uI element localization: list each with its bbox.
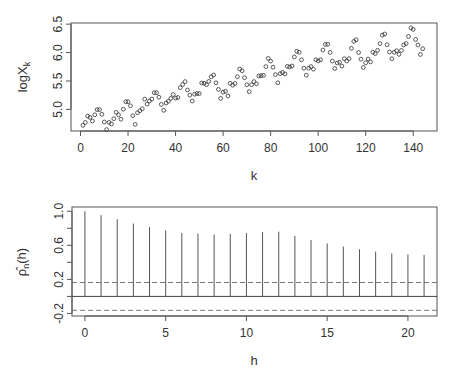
- data-point: [302, 66, 306, 70]
- data-point: [171, 93, 175, 97]
- x-tick-label: 80: [264, 141, 278, 155]
- data-point: [221, 90, 225, 94]
- bottom-y-axis-label: ρ̂n(h): [14, 248, 31, 276]
- data-point: [378, 42, 382, 46]
- x-tick-label: 140: [403, 141, 423, 155]
- data-point: [293, 55, 297, 59]
- data-point: [369, 60, 373, 64]
- data-point: [364, 61, 368, 65]
- data-point: [188, 93, 192, 97]
- x-tick-label: 15: [320, 326, 334, 340]
- data-point: [224, 89, 228, 93]
- data-point: [131, 114, 135, 118]
- data-point: [326, 42, 330, 46]
- bottom-y-axis: -0.20.20.61.0: [52, 203, 72, 324]
- data-point: [236, 75, 240, 79]
- y-tick-label: 0.6: [52, 237, 66, 254]
- data-point: [328, 51, 332, 55]
- data-point: [304, 73, 308, 77]
- data-point: [176, 96, 180, 100]
- acf-bars: [85, 211, 424, 296]
- top-plot-frame: [71, 23, 437, 131]
- data-point: [400, 49, 404, 53]
- data-point: [98, 108, 102, 112]
- data-point: [190, 99, 194, 103]
- data-point: [297, 50, 301, 54]
- data-point: [133, 123, 137, 127]
- data-point: [312, 67, 316, 71]
- top-x-axis: 020406080100120140: [77, 131, 423, 155]
- data-point: [119, 117, 123, 121]
- x-tick-label: 100: [308, 141, 328, 155]
- x-tick-label: 10: [240, 326, 254, 340]
- bottom-x-axis-label: h: [250, 353, 257, 368]
- y-tick-label: 0.2: [52, 271, 66, 288]
- y-tick-label: 5.5: [51, 72, 65, 89]
- data-point: [385, 43, 389, 47]
- data-point: [290, 64, 294, 68]
- data-point: [112, 117, 116, 121]
- data-point: [214, 81, 218, 85]
- data-point: [162, 108, 166, 112]
- data-point: [117, 113, 121, 117]
- data-point: [262, 74, 266, 78]
- data-point: [376, 48, 380, 52]
- x-tick-label: 20: [401, 326, 415, 340]
- data-point: [247, 90, 251, 94]
- data-point: [91, 119, 95, 123]
- data-point: [264, 65, 268, 69]
- x-tick-label: 20: [121, 141, 135, 155]
- x-tick-label: 0: [82, 326, 89, 340]
- data-point: [359, 57, 363, 61]
- x-tick-label: 60: [216, 141, 230, 155]
- data-point: [276, 81, 280, 85]
- data-point: [419, 53, 423, 57]
- data-point: [388, 50, 392, 54]
- data-point: [226, 94, 230, 98]
- data-point: [102, 120, 106, 124]
- data-point: [100, 112, 104, 116]
- x-tick-label: 5: [162, 326, 169, 340]
- y-tick-label: 5.0: [51, 101, 65, 118]
- data-point: [183, 80, 187, 84]
- data-point: [155, 91, 159, 95]
- data-point: [252, 80, 256, 84]
- y-tick-label: 6.5: [51, 15, 65, 32]
- x-tick-label: 0: [77, 141, 84, 155]
- data-point: [361, 66, 365, 70]
- data-point: [219, 97, 223, 101]
- data-point: [416, 43, 420, 47]
- data-point: [300, 58, 304, 62]
- data-point: [350, 46, 354, 50]
- data-point: [157, 95, 161, 99]
- data-point: [321, 48, 325, 52]
- data-point: [83, 121, 87, 125]
- data-point: [342, 57, 346, 61]
- data-point: [347, 57, 351, 61]
- figure: 020406080100120140 5.05.56.06.5 k logXk …: [0, 0, 454, 379]
- data-point: [271, 65, 275, 69]
- data-point: [245, 83, 249, 87]
- data-point: [93, 113, 97, 117]
- data-point: [129, 104, 133, 108]
- data-point: [397, 52, 401, 56]
- data-point: [255, 82, 259, 86]
- data-point: [126, 100, 130, 104]
- bottom-x-axis: 05101520: [82, 316, 415, 340]
- data-point: [288, 65, 292, 69]
- bottom-plot-frame: [72, 207, 437, 316]
- data-point: [421, 47, 425, 51]
- data-point: [121, 107, 125, 111]
- data-point: [340, 64, 344, 68]
- y-tick-label: 1.0: [52, 203, 66, 220]
- top-x-axis-label: k: [251, 168, 258, 183]
- x-tick-label: 40: [169, 141, 183, 155]
- top-y-axis: 5.05.56.06.5: [51, 15, 71, 117]
- data-point: [197, 92, 201, 96]
- x-tick-label: 120: [356, 141, 376, 155]
- acf-plot: 05101520 -0.20.20.61.0 h ρ̂n(h): [14, 203, 437, 368]
- data-point: [407, 35, 411, 39]
- data-point: [243, 76, 247, 80]
- data-point: [338, 60, 342, 64]
- data-point: [169, 97, 173, 101]
